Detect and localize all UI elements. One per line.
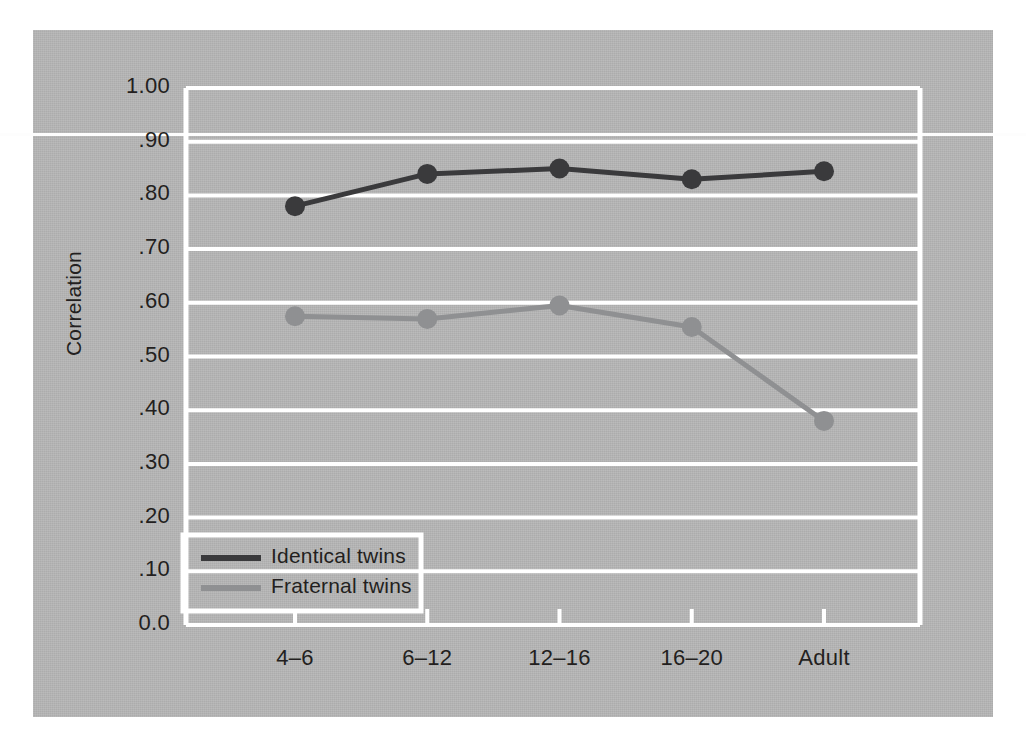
data-point-marker (814, 411, 834, 431)
data-point-marker (417, 309, 437, 329)
data-point-marker (285, 306, 305, 326)
data-point-marker (417, 164, 437, 184)
data-point-marker (682, 317, 702, 337)
data-point-marker (682, 169, 702, 189)
data-point-marker (550, 295, 570, 315)
figure-page: Correlation 0.0.10.20.30.40.50.60.70.80.… (0, 0, 1026, 743)
data-point-marker (814, 161, 834, 181)
series-line (295, 305, 824, 420)
data-series-layer (285, 159, 834, 431)
data-point-marker (285, 196, 305, 216)
line-chart-plot (0, 0, 1026, 743)
data-point-marker (550, 159, 570, 179)
